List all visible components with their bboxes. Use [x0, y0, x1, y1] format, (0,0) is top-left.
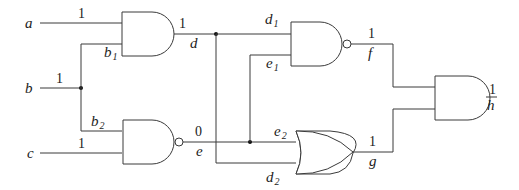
wire-d2	[216, 34, 296, 163]
nand-gate-2	[123, 120, 174, 164]
and-gate-5	[435, 76, 490, 120]
nand-gate-3	[291, 22, 342, 66]
input-b-value: 1	[56, 71, 63, 86]
label-e2: e2	[274, 123, 287, 141]
output-g-label: g	[369, 153, 377, 169]
output-e-value: 0	[195, 124, 202, 139]
input-a-value: 1	[78, 6, 85, 21]
logic-circuit-diagram: a 1 b 1 b1 b2 c 1 1 d d1 d2 0 e e1 e2 1 …	[0, 0, 519, 190]
nand-bubble-3	[343, 40, 351, 48]
label-b1: b1	[104, 44, 118, 62]
input-c-label: c	[27, 145, 34, 161]
output-d-label: d	[190, 35, 198, 51]
output-e-label: e	[196, 143, 203, 159]
label-e1: e1	[266, 55, 279, 73]
output-h-label: h	[487, 97, 495, 113]
wire-g	[353, 109, 435, 152]
input-b-label: b	[25, 80, 33, 96]
output-g-value: 1	[369, 134, 376, 149]
and-gate-1	[122, 12, 174, 56]
input-a-label: a	[25, 15, 33, 31]
input-c-value: 1	[78, 136, 85, 151]
output-h-value: 1	[489, 82, 496, 97]
nand-bubble-2	[175, 138, 183, 146]
label-d2: d2	[266, 169, 280, 187]
label-d1: d1	[265, 11, 279, 29]
wire-f	[351, 44, 435, 87]
output-d-value: 1	[179, 16, 186, 31]
output-f-label: f	[368, 45, 374, 61]
label-b2: b2	[91, 113, 105, 131]
output-f-value: 1	[368, 26, 375, 41]
